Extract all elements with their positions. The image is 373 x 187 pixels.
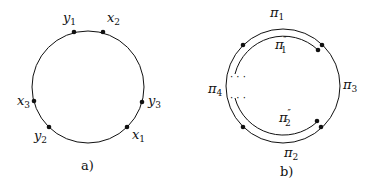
- label-pi4: π4: [207, 81, 223, 98]
- label-pi3: π3: [342, 77, 358, 94]
- point-b-bottom-right-outer: [319, 125, 324, 130]
- label-x2: x2: [107, 10, 120, 27]
- point-x2: [101, 30, 106, 35]
- point-y2: [47, 125, 52, 130]
- point-b-bottom-left: [241, 125, 246, 130]
- label-x3: x3: [17, 93, 30, 110]
- point-x1: [125, 125, 130, 130]
- label-pi1pp: π″1: [274, 35, 288, 55]
- ellipsis-bottom: · · ·: [230, 92, 246, 103]
- point-b-bottom-right-inner: [315, 119, 320, 124]
- panel-a: y1 x2 y3 x1 y2 x3 a): [17, 10, 161, 173]
- point-y1: [72, 30, 77, 35]
- label-y1: y1: [62, 10, 76, 27]
- panel-b: · · · · · · π1 π″1 π3 π4 π″2 π2 b): [207, 5, 358, 179]
- caption-a: a): [81, 158, 94, 173]
- point-b-top-left: [241, 43, 246, 48]
- point-x3: [32, 99, 37, 104]
- arc-pi2-pp: [235, 98, 317, 135]
- label-x1: x1: [132, 127, 145, 144]
- diagram-canvas: y1 x2 y3 x1 y2 x3 a) · · · · · · π1 π″1 …: [0, 0, 373, 187]
- label-y3: y3: [147, 93, 161, 110]
- label-pi2: π2: [283, 145, 298, 162]
- point-y3: [140, 100, 145, 105]
- label-pi2pp: π″2: [278, 108, 292, 128]
- point-b-top-right-outer: [320, 43, 325, 48]
- ellipsis-top: · · ·: [230, 71, 246, 82]
- label-pi1: π1: [269, 5, 284, 22]
- point-b-top-right-inner: [316, 48, 321, 53]
- caption-b: b): [280, 164, 293, 179]
- label-y2: y2: [33, 128, 47, 145]
